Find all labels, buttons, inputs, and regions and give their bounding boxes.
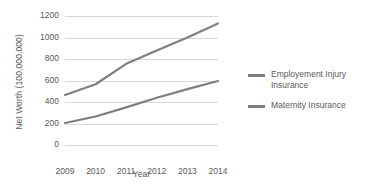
series-lines xyxy=(65,16,218,145)
line-chart: Net Worth (100,000,000) Year 02004006008… xyxy=(0,0,366,189)
y-axis-tick-label: 400 xyxy=(25,96,59,106)
plot-area: 020040060080010001200 200920102011201220… xyxy=(65,16,218,145)
x-axis-tick-label: 2009 xyxy=(48,166,82,176)
legend-label: Maternity Insurance xyxy=(271,100,346,111)
legend-item[interactable]: Employement Injury Insurance xyxy=(248,69,366,91)
legend-swatch-icon xyxy=(248,74,265,77)
x-axis-tick-label: 2012 xyxy=(140,166,174,176)
y-axis-tick-label: 1000 xyxy=(25,32,59,42)
legend-label: Employement Injury Insurance xyxy=(271,69,363,91)
y-axis-tick-label: 0 xyxy=(25,139,59,149)
gridline xyxy=(65,145,218,146)
y-axis-title: Net Worth (100,000,000) xyxy=(14,22,24,142)
y-axis-tick-label: 800 xyxy=(25,53,59,63)
y-axis-tick-label: 1200 xyxy=(25,10,59,20)
y-axis-tick-label: 600 xyxy=(25,75,59,85)
y-axis-tick-label: 200 xyxy=(25,118,59,128)
x-axis-tick-label: 2014 xyxy=(201,166,235,176)
series-line xyxy=(65,24,218,95)
legend-item[interactable]: Maternity Insurance xyxy=(248,100,366,111)
x-axis-tick-label: 2011 xyxy=(109,166,143,176)
chart-legend: Employement Injury InsuranceMaternity In… xyxy=(248,69,366,120)
x-axis-tick-label: 2013 xyxy=(170,166,204,176)
x-axis-tick-label: 2010 xyxy=(79,166,113,176)
legend-swatch-icon xyxy=(248,105,265,108)
